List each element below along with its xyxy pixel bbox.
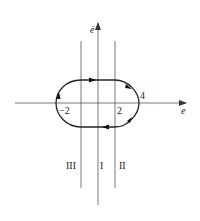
region-label-ii: II [119,160,126,171]
tick-label-four: 4 [140,90,145,101]
tick-label-neg-two: −2 [59,105,70,116]
trajectory-arrow-top-icon [89,78,96,83]
phase-plane-diagram: −2 2 4 e ė III I II [0,0,200,221]
region-label-iii: III [66,160,76,171]
x-axis-label: e [181,105,186,116]
y-axis-label: ė [90,24,95,35]
region-label-i: I [100,160,103,171]
trajectory-arrow-bottom-icon [102,125,109,130]
tick-label-two: 2 [117,105,122,116]
